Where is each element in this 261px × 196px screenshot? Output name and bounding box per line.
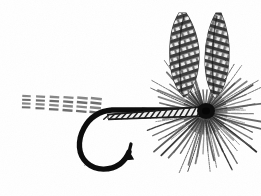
dry-fly-illustration bbox=[0, 0, 261, 196]
halftone-grain-overlay bbox=[0, 0, 261, 196]
fly-illustration-canvas: Black and white halftone illustration of… bbox=[0, 0, 261, 196]
